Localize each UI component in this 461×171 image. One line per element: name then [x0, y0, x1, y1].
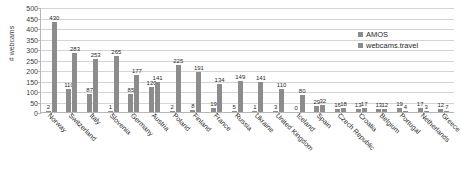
bar-value-label: 1 [253, 104, 256, 111]
bar-value-label: 17 [417, 101, 424, 108]
bar: 87 [87, 94, 92, 112]
bar-value-label: 141 [153, 75, 163, 82]
bar-value-label: 17 [361, 101, 368, 108]
bar-value-label: 110 [277, 82, 287, 89]
y-axis-tick-label: 250 [26, 57, 38, 64]
bar: 5 [232, 111, 237, 112]
bar: 110 [279, 89, 284, 112]
x-axis-category: Germany [123, 116, 144, 171]
bar-group: 194 [392, 8, 413, 112]
bar: 12 [438, 109, 443, 112]
y-axis-tick-label: 100 [26, 89, 38, 96]
bar-value-label: 2 [47, 104, 50, 111]
bar-value-label: 253 [91, 52, 101, 59]
bar: 120 [149, 87, 154, 112]
bar-value-label: 225 [173, 58, 183, 65]
bar-group: 3110 [268, 8, 289, 112]
bar-value-label: 265 [111, 49, 121, 56]
y-axis-tick-label: 350 [26, 36, 38, 43]
y-axis-tick-label: 300 [26, 47, 38, 54]
bar: 13 [376, 109, 381, 112]
bar-value-label: 18 [340, 101, 347, 108]
bar-value-label: 85 [128, 87, 135, 94]
bar: 149 [238, 81, 243, 112]
x-axis-category: Russia [226, 116, 247, 171]
bar-group: 110283 [62, 8, 83, 112]
bar: 265 [114, 56, 119, 112]
y-axis-tick-label: 400 [26, 26, 38, 33]
x-axis-category: Czech Republic [330, 116, 351, 171]
x-axis-category: Greece [433, 116, 454, 171]
bar: 80 [300, 95, 305, 112]
x-axis-category: Ukraine [247, 116, 268, 171]
bar-group: 85177 [124, 8, 145, 112]
bar-chart: # webcams 050100150200250300350400450500… [0, 0, 461, 171]
bar-groups: 2430110283872531265851771201412225819119… [41, 8, 454, 112]
y-axis-tick-label: 200 [26, 68, 38, 75]
bar: 430 [52, 22, 57, 112]
legend-item[interactable]: webcams.travel [358, 40, 418, 51]
bar-value-label: 19 [210, 101, 217, 108]
bar-value-label: 87 [86, 87, 93, 94]
x-axis-category-label: Italy [88, 112, 102, 126]
bar-value-label: 4 [404, 104, 407, 111]
bar-value-label: 3 [274, 104, 277, 111]
bar-value-label: 149 [235, 74, 245, 81]
bar-group: 080 [289, 8, 310, 112]
x-axis-category: Switzerland [61, 116, 82, 171]
x-axis-category: Spain [309, 116, 330, 171]
x-axis-category: Slovenia [102, 116, 123, 171]
bar-value-label: 8 [191, 103, 194, 110]
bar-group: 1317 [351, 8, 372, 112]
bar: 283 [72, 53, 77, 112]
bar-value-label: 12 [381, 102, 388, 109]
legend-swatch-icon [358, 32, 363, 37]
bar-group: 19134 [206, 8, 227, 112]
bar-value-label: 1 [109, 104, 112, 111]
bar-value-label: 5 [233, 104, 236, 111]
x-axis-category: Croatia [351, 116, 372, 171]
bar: 85 [128, 94, 133, 112]
x-axis-category-label: Greece [440, 112, 461, 133]
bar: 29 [314, 106, 319, 112]
x-axis-category: Austria [144, 116, 165, 171]
bar: 13 [356, 109, 361, 112]
x-axis-category: Belgium [371, 116, 392, 171]
bar: 141 [258, 82, 263, 112]
bar-group: 1141 [248, 8, 269, 112]
x-axis-labels: NorwaySwitzerlandItalySloveniaGermanyAus… [40, 116, 454, 171]
bar-value-label: 3 [424, 104, 427, 111]
bar: 141 [155, 82, 160, 112]
bar-group: 2225 [165, 8, 186, 112]
x-axis-category: Poland [164, 116, 185, 171]
legend: AMOSwebcams.travel [358, 29, 418, 51]
bar-group: 1618 [330, 8, 351, 112]
bar-value-label: 283 [70, 46, 80, 53]
bar: 177 [134, 75, 139, 112]
bar: 134 [217, 84, 222, 112]
bar: 32 [320, 105, 325, 112]
bar-value-label: 12 [437, 102, 444, 109]
bar-group: 87253 [82, 8, 103, 112]
y-axis-tick-label: 500 [26, 5, 38, 12]
x-axis-category: Norway [40, 116, 61, 171]
bar-value-label: 0 [295, 105, 298, 112]
bar: 191 [196, 72, 201, 112]
bar-group: 2932 [310, 8, 331, 112]
bar-group: 5149 [227, 8, 248, 112]
bar: 2 [170, 111, 175, 112]
bar-value-label: 191 [194, 65, 204, 72]
x-axis-category: France [206, 116, 227, 171]
legend-label: AMOS [366, 29, 388, 40]
bar-group: 2430 [41, 8, 62, 112]
bar-group: 1265 [103, 8, 124, 112]
x-axis-category: Netherlands [413, 116, 434, 171]
legend-item[interactable]: AMOS [358, 29, 418, 40]
bar: 110 [66, 89, 71, 112]
legend-label: webcams.travel [366, 40, 418, 51]
bar-value-label: 134 [215, 77, 225, 84]
y-axis-tick-label: 150 [26, 78, 38, 85]
x-axis-category: Iceland [288, 116, 309, 171]
bar-group: 8191 [186, 8, 207, 112]
bar: 253 [93, 59, 98, 112]
